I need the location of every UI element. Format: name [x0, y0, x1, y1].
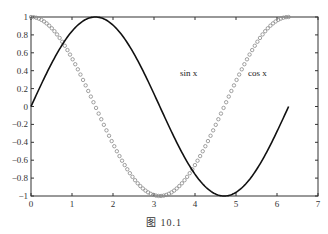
svg-text:0.4: 0.4 — [17, 66, 29, 76]
svg-text:0.2: 0.2 — [17, 84, 28, 94]
svg-text:−1: −1 — [18, 191, 28, 201]
svg-text:0: 0 — [24, 102, 29, 112]
figure-caption: 图 10.1 — [0, 214, 328, 229]
svg-text:−0.6: −0.6 — [12, 155, 29, 165]
svg-text:5: 5 — [234, 199, 239, 209]
cos-label: cos x — [248, 68, 267, 78]
svg-text:3: 3 — [152, 199, 157, 209]
svg-text:1: 1 — [70, 199, 75, 209]
svg-text:−0.4: −0.4 — [12, 137, 29, 147]
svg-text:0.8: 0.8 — [17, 30, 29, 40]
svg-text:2: 2 — [111, 199, 116, 209]
sin-label: sin x — [180, 68, 198, 78]
axes-frame — [31, 17, 318, 196]
chart: 0123456710.80.60.40.20−0.2−0.4−0.6−0.8−1… — [0, 0, 328, 234]
svg-text:−0.2: −0.2 — [12, 119, 28, 129]
svg-text:0: 0 — [29, 199, 34, 209]
svg-text:0.6: 0.6 — [17, 48, 29, 58]
sin-series-line — [31, 17, 289, 196]
svg-text:−0.8: −0.8 — [12, 173, 29, 183]
svg-text:7: 7 — [316, 199, 321, 209]
svg-text:1: 1 — [24, 12, 29, 22]
svg-text:6: 6 — [275, 199, 280, 209]
tick-labels: 0123456710.80.60.40.20−0.2−0.4−0.6−0.8−1 — [12, 12, 321, 209]
svg-text:4: 4 — [193, 199, 198, 209]
